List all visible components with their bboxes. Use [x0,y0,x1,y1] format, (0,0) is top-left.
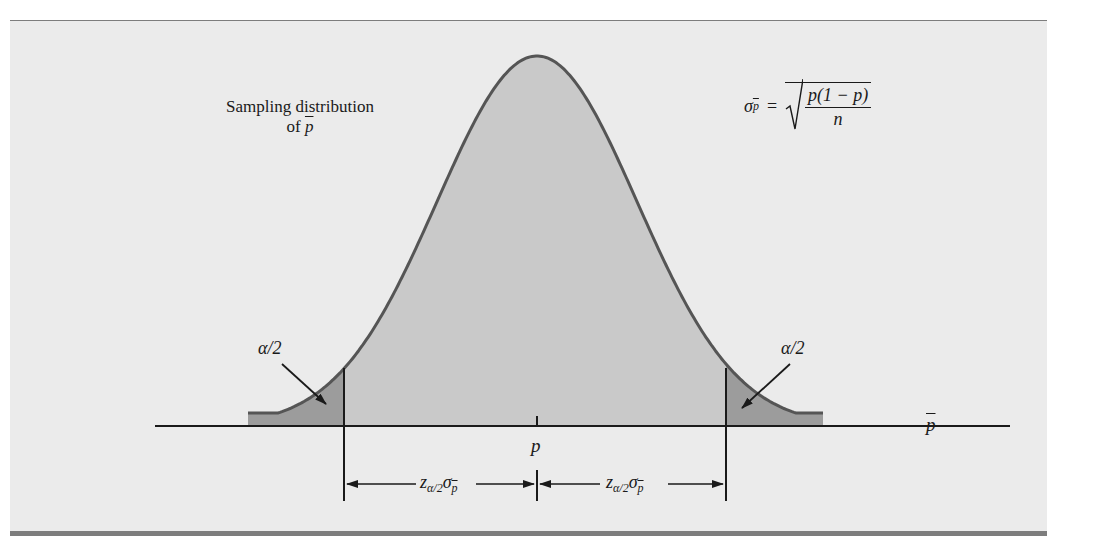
left-alpha-label: α/2 [258,338,281,359]
z-subscript: α/2 [427,481,443,495]
p-bar-symbol: p [305,117,314,136]
normal-curve-diagram [0,0,1106,558]
central-area [344,56,726,426]
sigma-subscript: p [638,481,644,495]
sampling-distribution-label: Sampling distribution of p [200,97,400,137]
right-margin-label: zα/2σp [602,472,648,496]
sampling-label-of: of [287,117,305,136]
radical-icon [785,79,803,131]
sigma-symbol: σ [443,472,452,492]
formula-numerator: p(1 − p) [805,85,871,108]
axis-label-p-bar: p [926,414,936,436]
sigma-subscript: p [753,99,759,114]
standard-error-formula: σp = p(1 − p) n [744,82,871,130]
z-subscript: α/2 [613,481,629,495]
sigma-symbol: σ [629,472,638,492]
sigma-subscript: p [452,481,458,495]
fraction: p(1 − p) n [805,85,871,130]
z-symbol: z [420,472,427,492]
sampling-label-line1: Sampling distribution [226,97,374,116]
mean-label-p: p [531,435,541,457]
sigma-symbol: σ [744,96,753,117]
right-tail-area [726,364,823,426]
equals-sign: = [767,96,777,117]
square-root: p(1 − p) n [785,82,871,130]
left-margin-label: zα/2σp [416,472,462,496]
formula-denominator: n [834,108,843,130]
sampling-label-line2: of p [200,117,400,137]
right-alpha-label: α/2 [781,338,804,359]
left-alpha-pointer [282,364,326,404]
z-symbol: z [606,472,613,492]
